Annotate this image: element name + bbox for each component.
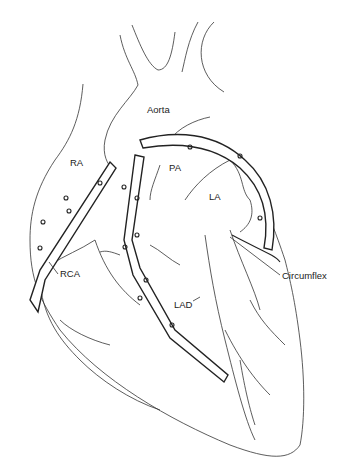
label-ra: RA (70, 157, 83, 168)
label-la: LA (209, 191, 221, 202)
branch (100, 251, 120, 255)
aorta-arch-inner (132, 25, 175, 70)
circumflex-marginal (225, 330, 270, 395)
lad-leader (193, 297, 200, 301)
pa-outline (150, 165, 160, 200)
graft-circumflex (140, 135, 274, 250)
label-aorta: Aorta (147, 104, 170, 115)
label-pa: PA (169, 162, 181, 173)
heart-diagram: Aorta RA PA LA RCA LAD Circumflex (0, 0, 344, 475)
rca-branch (40, 285, 160, 410)
label-rca: RCA (60, 268, 80, 279)
graft-lad (124, 155, 228, 382)
septum-line (205, 235, 255, 440)
la-outline (185, 160, 230, 200)
heart-drawing (0, 0, 344, 475)
vessel-outline (201, 22, 224, 92)
label-lad: LAD (174, 299, 192, 310)
vessel-outline (182, 22, 198, 72)
lad-diagonal (150, 245, 180, 265)
circumflex-marginal (240, 360, 255, 425)
circumflex-marginal (250, 300, 285, 345)
aorta-left-outline (104, 35, 138, 168)
graft-rca (30, 162, 116, 312)
rca-branch (60, 320, 110, 345)
label-circumflex: Circumflex (282, 270, 327, 281)
